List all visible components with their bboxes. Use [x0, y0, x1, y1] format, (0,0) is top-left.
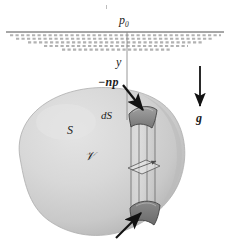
label-gravity: g — [196, 112, 202, 124]
surface-hatching — [10, 35, 221, 49]
label-volume: 𝒱 — [85, 150, 95, 162]
elemental-prism — [128, 107, 160, 225]
label-pressure-force: −np — [98, 76, 119, 88]
label-area-element: dS — [101, 110, 112, 121]
label-surface: S — [67, 124, 73, 136]
prism-bottom-cap — [130, 201, 160, 225]
label-y-axis: y — [116, 56, 121, 68]
body-highlight — [36, 104, 96, 140]
scan-speck — [106, 5, 107, 9]
label-surface-pressure: p0 — [119, 14, 129, 29]
free-surface — [6, 32, 224, 50]
bottom-face-patch — [130, 201, 160, 225]
